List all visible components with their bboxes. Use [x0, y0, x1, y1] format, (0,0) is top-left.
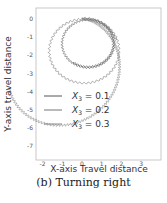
chart: -2-10123 0-1-2-3-4-5-6-7 X3 = 0.1X3 = 0.… [0, 0, 167, 203]
legend-label: X3 = 0.3 [71, 119, 110, 130]
y-tick-label: -5 [27, 106, 33, 113]
y-tick-label: -1 [27, 33, 33, 40]
y-tick-label: -4 [27, 88, 33, 95]
y-axis-label: Y-axis travel distance [3, 36, 13, 133]
y-tick-label: 0 [29, 15, 33, 22]
y-tick-label: -2 [27, 51, 33, 58]
legend-label: X3 = 0.1 [71, 91, 110, 102]
x-axis-label: X-axis Travel distance [50, 164, 148, 174]
plot-frame [36, 8, 161, 160]
x-tick-label: -2 [40, 160, 46, 167]
y-tick-label: -6 [27, 124, 33, 131]
y-tick-label: -3 [27, 70, 33, 77]
figure-caption: (b) Turning right [0, 176, 167, 189]
y-tick-label: -7 [27, 142, 33, 149]
y-axis-ticks: 0-1-2-3-4-5-6-7 [27, 15, 33, 149]
legend-label: X3 = 0.2 [71, 105, 110, 116]
